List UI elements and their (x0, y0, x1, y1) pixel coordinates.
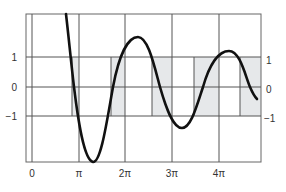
y-tick-right-1: 1 (266, 55, 272, 66)
grid (26, 14, 261, 162)
y-tick-right-neg1: −1 (264, 113, 276, 124)
y-tick-left-neg1: −1 (6, 111, 18, 122)
chart: 1 0 −1 1 0 −1 0 π 2π 3π 4π (0, 0, 286, 192)
data-line (66, 14, 257, 162)
x-tick-2pi: 2π (119, 168, 132, 179)
y-tick-left-1: 1 (11, 52, 17, 63)
y-tick-left-0: 0 (11, 82, 17, 93)
x-tick-0: 0 (29, 168, 35, 179)
x-tick-4pi: 4π (213, 168, 226, 179)
x-tick-pi: π (76, 168, 83, 179)
x-tick-3pi: 3π (166, 168, 179, 179)
y-tick-right-0: 0 (266, 84, 272, 95)
